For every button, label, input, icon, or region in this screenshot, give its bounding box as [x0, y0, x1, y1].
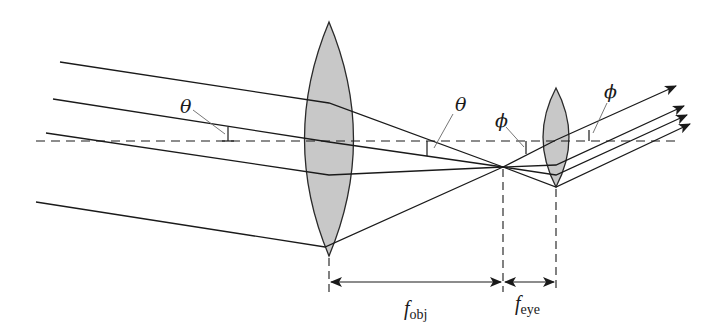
f-obj-label: fobj [404, 297, 427, 322]
ray-4 [36, 167, 503, 247]
theta-right-leader [434, 114, 453, 148]
eyepiece-lens [543, 88, 569, 187]
ray-3 [46, 133, 503, 175]
phi-left-label: ϕ [495, 109, 508, 131]
telescope-diagram: θ θ ϕ ϕ fobj feye [0, 0, 722, 328]
f-eye-label: feye [515, 292, 540, 317]
phi-left-leader [506, 127, 524, 147]
phi-right-label: ϕ [604, 80, 617, 102]
theta-left-label: θ [180, 95, 192, 117]
theta-right-label: θ [455, 93, 467, 115]
incoming-rays [36, 62, 503, 247]
ray-out-1 [503, 86, 676, 167]
outgoing-rays [503, 86, 690, 187]
ray-out-4 [503, 124, 690, 187]
ray-2 [53, 99, 503, 167]
ray-1 [60, 62, 503, 167]
